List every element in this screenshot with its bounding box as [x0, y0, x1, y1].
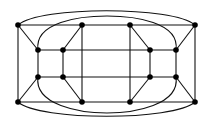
edge-Bt2-B2	[63, 77, 82, 102]
edge-TL-A1	[18, 25, 38, 50]
node-BL	[15, 99, 21, 105]
node-B2	[60, 74, 66, 80]
graph-diagram	[0, 0, 207, 123]
node-TR	[192, 22, 198, 28]
node-A4	[173, 47, 179, 53]
edge-TR-A4	[176, 25, 195, 50]
node-TL	[15, 22, 21, 28]
outer-top-arc	[18, 11, 195, 25]
edge-T3-A3	[130, 25, 150, 50]
node-Bt3	[127, 99, 133, 105]
edge-BL-B1	[18, 77, 38, 102]
node-Bt2	[79, 99, 85, 105]
node-T3	[127, 22, 133, 28]
edge-BR-B4	[176, 77, 195, 102]
graph-nodes	[15, 22, 198, 105]
node-A2	[60, 47, 66, 53]
node-BR	[192, 99, 198, 105]
inner-top-arc	[38, 16, 176, 50]
outer-bottom-arc	[18, 102, 195, 116]
edge-Bt3-B3	[130, 77, 150, 102]
node-B1	[35, 74, 41, 80]
edge-T2-A2	[63, 25, 82, 50]
node-T2	[79, 22, 85, 28]
node-A1	[35, 47, 41, 53]
node-A3	[147, 47, 153, 53]
graph-curved-edges	[18, 11, 195, 117]
graph-edges	[18, 25, 195, 102]
node-B4	[173, 74, 179, 80]
node-B3	[147, 74, 153, 80]
inner-bottom-arc	[38, 77, 176, 113]
